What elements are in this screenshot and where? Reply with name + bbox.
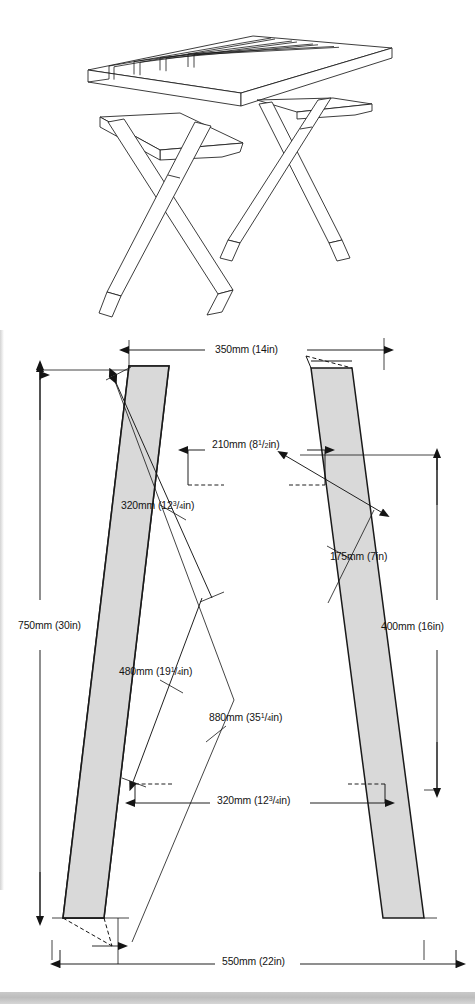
dimension-label-550mm: 550mm (22in) (222, 956, 285, 967)
left-foot-mitre (63, 918, 112, 946)
dimension-label-175mm: 175mm (7in) (330, 551, 387, 562)
dimension-label-320mm-lower: 320mm (123/4in) (217, 795, 290, 806)
leader-880mm (206, 726, 226, 742)
dimension-label-880mm: 880mm (351/4in) (209, 712, 282, 723)
dimension-label-350mm: 350mm (14in) (215, 344, 278, 355)
dimension-label-210mm: 210mm (81/2in) (212, 439, 280, 450)
dimline-750mm (0, 370, 40, 918)
perspective-view (88, 36, 392, 317)
right-leg-mitre-edge (306, 356, 311, 368)
drawing-sheet: 350mm (14in) 210mm (81/2in) 320mm (123/4… (0, 0, 475, 1004)
dimension-label-480mm: 480mm (191/4in) (119, 666, 192, 677)
page-footer-strip (0, 992, 475, 1004)
dimension-label-320mm-upper: 320mm (123/4in) (121, 500, 194, 511)
leg-right-rail (311, 368, 424, 918)
page-edge-shadow (0, 330, 4, 890)
front-leg-frame (99, 113, 243, 317)
right-leg-top-mitre (306, 356, 352, 368)
leg-left-rail-overlap (63, 366, 169, 918)
leader-480mm (160, 680, 183, 693)
technical-drawing (0, 0, 475, 1004)
rear-leg-frame (220, 98, 372, 261)
dimension-label-750mm: 750mm (30in) (18, 620, 81, 631)
dimension-label-400mm: 400mm (16in) (381, 621, 444, 632)
